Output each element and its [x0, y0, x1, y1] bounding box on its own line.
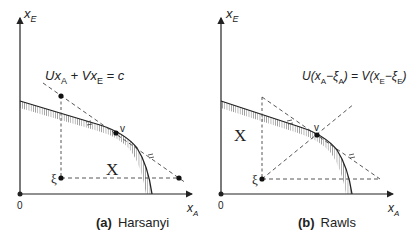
hypotenuse-dash [262, 97, 380, 179]
y-axis-label: xE [225, 6, 240, 24]
panel-a-harsanyi: xE xA 0 X v ξ UxA + VxE = c (a)Harsanyi [17, 6, 198, 230]
y-axis-label: xE [23, 6, 38, 24]
right-point [176, 175, 181, 180]
point-xi-label: ξ [252, 172, 258, 187]
point-xi [58, 175, 63, 180]
caption-b: (b)Rawls [298, 215, 357, 230]
upper-point [58, 93, 63, 98]
x-axis-label: xA [387, 201, 399, 218]
origin-dot [18, 192, 23, 197]
region-x-label: X [106, 160, 118, 179]
origin-dot [219, 192, 224, 197]
equal-segment-tick-2 [349, 154, 355, 158]
point-xi-label: ξ [51, 171, 57, 186]
x-axis-label: xA [186, 201, 198, 218]
point-v [113, 130, 118, 135]
panel-b-rawls: xE xA 0 X v ξ U(xA−ξA) = V(xE−ξE) (b)Raw… [218, 6, 406, 230]
rawls-equation: U(xA−ξA) = V(xE−ξE) [302, 69, 406, 86]
iso-welfare-equation: UxA + VxE = c [45, 68, 125, 86]
caption-a: (a)Harsanyi [96, 215, 169, 230]
point-xi [259, 176, 264, 181]
point-v [314, 132, 319, 137]
point-v-label: v [314, 122, 319, 133]
point-v-label: v [120, 123, 125, 134]
frontier-hatch [20, 101, 152, 194]
origin-label: 0 [17, 200, 23, 211]
origin-label: 0 [218, 200, 224, 211]
frontier-hatch [221, 101, 352, 194]
diagram-canvas: xE xA 0 X v ξ UxA + VxE = c (a)Harsanyi … [0, 0, 414, 245]
region-x-label: X [234, 126, 246, 145]
